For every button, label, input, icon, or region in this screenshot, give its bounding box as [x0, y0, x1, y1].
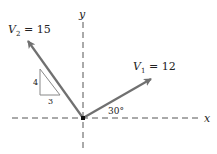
v2-label: V2 = 15 — [8, 23, 51, 38]
vector-diagram: x y 4 3 V2 = 15 V1 = 12 30° — [0, 0, 217, 154]
x-axis-label: x — [204, 112, 211, 125]
v1-label: V1 = 12 — [133, 60, 176, 75]
triangle-rise-label: 4 — [33, 78, 38, 87]
y-axis-label: y — [78, 8, 86, 21]
angle-label: 30° — [108, 106, 124, 116]
origin-point — [81, 116, 85, 120]
triangle-run-label: 3 — [48, 97, 53, 106]
